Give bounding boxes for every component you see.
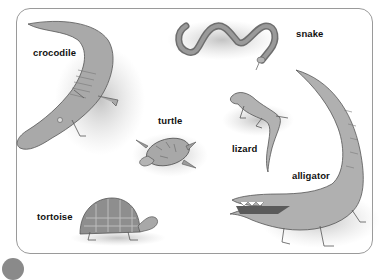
label-turtle: turtle [158, 115, 182, 126]
page-corner-dot [2, 258, 24, 280]
snake-illustration [167, 20, 277, 70]
label-crocodile: crocodile [33, 47, 76, 58]
tortoise-illustration [70, 198, 166, 246]
label-snake: snake [296, 28, 323, 39]
label-alligator: alligator [292, 170, 330, 181]
lizard-illustration [222, 93, 294, 172]
label-tortoise: tortoise [37, 211, 73, 222]
label-lizard: lizard [232, 143, 257, 154]
crocodile-illustration [17, 21, 145, 155]
turtle-illustration [132, 133, 208, 177]
